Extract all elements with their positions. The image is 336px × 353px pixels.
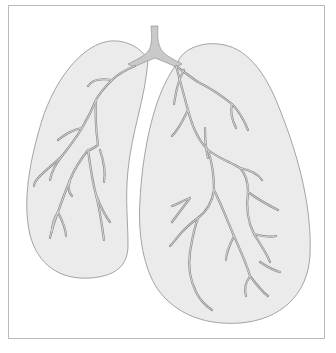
right-lung [140, 44, 311, 324]
trachea [128, 26, 182, 67]
left-lung [27, 41, 148, 278]
lungs-illustration [0, 0, 336, 353]
